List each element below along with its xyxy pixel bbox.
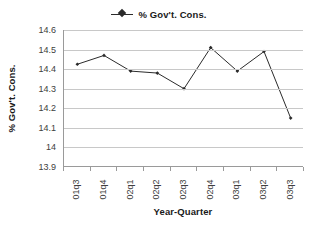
line-chart: % Gov't. Cons. % Gov't. Cons. 14.614.514… xyxy=(0,0,318,230)
x-axis-tick xyxy=(196,167,197,171)
gridline xyxy=(64,50,303,51)
data-point-marker xyxy=(75,62,79,66)
y-axis-tick-label: 14.6 xyxy=(20,26,56,35)
legend-marker-icon xyxy=(111,9,133,19)
x-axis-tick xyxy=(170,167,171,171)
y-axis-title-text: % Gov't. Cons. xyxy=(6,64,17,132)
x-axis-tick xyxy=(90,167,91,171)
y-axis-tick-label: 14.2 xyxy=(20,104,56,113)
y-axis-title: % Gov't. Cons. xyxy=(2,30,20,167)
y-axis-tick-label: 14 xyxy=(20,143,56,152)
legend-label: % Gov't. Cons. xyxy=(138,9,206,20)
gridline xyxy=(64,89,303,90)
data-point-marker xyxy=(289,116,293,120)
x-axis-tick xyxy=(143,167,144,171)
y-axis-tick-label: 14.5 xyxy=(20,45,56,54)
y-axis-tick-label: 14.1 xyxy=(20,123,56,132)
gridline xyxy=(64,128,303,129)
gridline xyxy=(64,147,303,148)
y-axis-tick-label: 14.3 xyxy=(20,84,56,93)
gridline xyxy=(64,69,303,70)
gridline xyxy=(64,108,303,109)
x-axis-title: Year-Quarter xyxy=(63,206,303,217)
x-axis-tick xyxy=(116,167,117,171)
y-axis-tick-labels: 14.614.514.414.314.214.11413.9 xyxy=(20,30,60,167)
x-axis-tick xyxy=(276,167,277,171)
x-axis-tick-labels: 01q301q402q102q202q302q403q103q203q3 xyxy=(63,172,303,204)
x-axis-tick xyxy=(303,167,304,171)
x-axis-tick xyxy=(63,167,64,171)
x-axis-tick xyxy=(223,167,224,171)
x-axis-tick xyxy=(250,167,251,171)
plot-area xyxy=(63,30,303,167)
x-axis-tick-label: 03q3 xyxy=(274,172,306,204)
y-axis-tick-label: 14.4 xyxy=(20,65,56,74)
y-axis-tick-label: 13.9 xyxy=(20,163,56,172)
chart-legend: % Gov't. Cons. xyxy=(0,6,318,22)
gridline xyxy=(64,30,303,31)
